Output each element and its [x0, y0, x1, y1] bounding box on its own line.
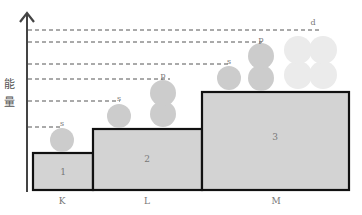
label-M-s: s: [227, 57, 231, 66]
shell-label-K: K: [59, 196, 66, 206]
label-L-s: s: [117, 94, 121, 103]
label-M-d: d: [310, 18, 315, 27]
shell-number-K: 1: [60, 167, 66, 177]
shell-label-M: M: [271, 196, 280, 206]
shell-number-M: 3: [272, 132, 278, 142]
label-L-p: p: [160, 71, 165, 80]
orbital-K-s: [50, 128, 74, 152]
shell-number-L: 2: [144, 154, 150, 164]
orbital-L-s: [107, 104, 131, 128]
label-K-s: s: [60, 119, 64, 128]
orbital-M-d: [284, 36, 337, 89]
orbital-L-p-upper: [150, 80, 176, 106]
orbital-M-s: [217, 66, 241, 90]
label-M-p: p: [258, 35, 263, 44]
orbital-M-p-upper: [248, 43, 274, 69]
shell-label-L: L: [144, 196, 150, 206]
y-axis-label-energy-1: 能: [4, 75, 15, 91]
y-axis-label-energy-2: 量: [4, 93, 15, 109]
energy-level-diagram: s s p s p d 1 2 3 K L M: [0, 0, 362, 215]
